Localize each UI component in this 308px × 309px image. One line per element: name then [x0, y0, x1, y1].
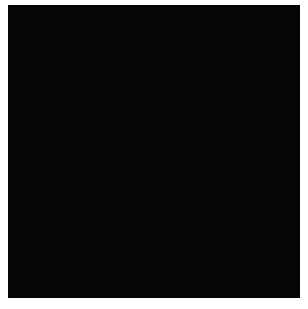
transit-image: [8, 5, 300, 298]
